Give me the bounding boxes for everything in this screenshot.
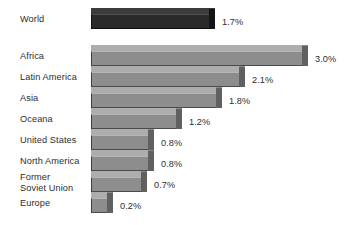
category-label: World: [20, 14, 44, 25]
bar-value-label: 2.1%: [252, 74, 273, 86]
category-label: United States: [20, 135, 76, 146]
bar-value-label: 1.2%: [189, 116, 210, 128]
bar-front-face: [91, 156, 148, 171]
bar-value-label: 0.7%: [154, 179, 175, 191]
category-label: North America: [20, 156, 80, 167]
bar-side-face: [302, 45, 308, 66]
bar-value-label: 3.0%: [315, 53, 336, 65]
bar-side-face: [148, 150, 154, 171]
bar-front-face: [91, 114, 176, 129]
bar-side-face: [176, 108, 182, 129]
bar-side-face: [209, 8, 215, 29]
bar-front-face: [91, 51, 302, 66]
category-label: Latin America: [20, 72, 77, 83]
bar-side-face: [141, 171, 147, 192]
category-label: Asia: [20, 93, 38, 104]
bar-front-face: [91, 14, 209, 29]
bar-front-face: [91, 93, 216, 108]
bar-value-label: 1.7%: [222, 16, 243, 28]
bar-front-face: [91, 198, 107, 213]
bar-front-face: [91, 135, 148, 150]
bar-front-face: [91, 177, 141, 192]
category-label: Oceana: [20, 114, 53, 125]
bar-side-face: [239, 66, 245, 87]
bar-side-face: [216, 87, 222, 108]
category-label: Former Soviet Union: [20, 172, 73, 193]
bar-front-face: [91, 72, 239, 87]
bar-value-label: 0.2%: [120, 200, 141, 212]
bar-side-face: [107, 192, 113, 213]
bar-value-label: 0.8%: [161, 137, 182, 149]
bar-value-label: 1.8%: [229, 95, 250, 107]
bar-chart: World1.7%Africa3.0%Latin America2.1%Asia…: [0, 0, 344, 225]
category-label: Europe: [20, 198, 50, 209]
bar-side-face: [148, 129, 154, 150]
bar-value-label: 0.8%: [161, 158, 182, 170]
category-label: Africa: [20, 51, 44, 62]
